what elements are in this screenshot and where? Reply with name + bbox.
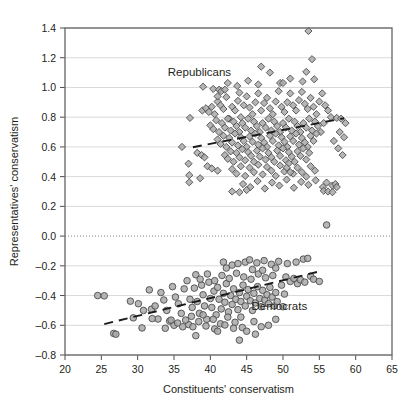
data-point <box>304 255 311 262</box>
data-point <box>211 277 218 284</box>
x-tick-label: 65 <box>386 363 398 375</box>
x-tick-label: 25 <box>95 363 107 375</box>
x-tick-label: 20 <box>59 363 71 375</box>
data-point <box>162 325 169 332</box>
data-point <box>204 271 211 278</box>
y-tick-label: –0.8 <box>36 349 57 361</box>
data-point <box>258 323 265 330</box>
y-tick-label: 0.2 <box>41 200 56 212</box>
data-point <box>139 325 146 332</box>
data-point <box>281 291 288 298</box>
data-point <box>182 317 189 324</box>
data-point <box>316 278 323 285</box>
x-tick-label: 50 <box>277 363 289 375</box>
data-point <box>272 289 279 296</box>
y-axis-title: Representatives' conservatism <box>8 117 20 266</box>
data-point <box>158 289 165 296</box>
data-point <box>203 323 210 330</box>
y-tick-label: 1.0 <box>41 81 56 93</box>
data-point <box>214 328 221 335</box>
data-point <box>252 331 259 338</box>
data-point <box>224 314 231 321</box>
data-point <box>210 316 217 323</box>
data-point <box>262 274 269 281</box>
data-point <box>259 267 266 274</box>
y-tick-label: 0.4 <box>41 171 56 183</box>
y-tick-label: –0.4 <box>36 290 57 302</box>
data-point <box>293 259 300 266</box>
data-point <box>243 328 250 335</box>
data-point <box>235 260 242 267</box>
data-point <box>193 332 200 339</box>
data-point <box>270 272 277 279</box>
scatter-plot-figure: 20253035404550556065 –0.8–0.6–0.4–0.20.0… <box>0 0 420 415</box>
chart-canvas: 20253035404550556065 –0.8–0.6–0.4–0.20.0… <box>0 0 420 415</box>
data-point <box>238 314 245 321</box>
data-point <box>261 257 268 264</box>
data-point <box>184 277 191 284</box>
data-point <box>214 284 221 291</box>
data-point <box>161 297 168 304</box>
data-point <box>233 270 240 277</box>
chart-background <box>0 0 420 415</box>
data-point <box>101 293 108 300</box>
annotation-democrats: Democrats <box>252 300 308 312</box>
y-tick-label: 1.4 <box>41 22 56 34</box>
data-point <box>267 284 274 291</box>
annotation-republicans: Republicans <box>168 66 232 78</box>
x-tick-label: 35 <box>168 363 180 375</box>
data-point <box>230 325 237 332</box>
data-point <box>189 304 196 311</box>
data-point <box>140 307 147 314</box>
data-point <box>251 318 258 325</box>
data-point <box>222 322 229 329</box>
y-tick-label: –0.2 <box>36 260 57 272</box>
data-point <box>249 266 256 273</box>
data-point <box>275 258 282 265</box>
data-point <box>168 317 175 324</box>
data-point <box>146 287 153 294</box>
x-tick-label: 55 <box>313 363 325 375</box>
data-point <box>223 265 230 272</box>
data-point <box>235 306 242 313</box>
x-tick-label: 60 <box>350 363 362 375</box>
data-point <box>135 300 142 307</box>
data-point <box>190 323 197 330</box>
data-point <box>323 222 330 229</box>
data-point <box>254 260 261 267</box>
data-point <box>181 286 188 293</box>
y-tick-label: 0.8 <box>41 111 56 123</box>
y-tick-label: 0.0 <box>41 230 56 242</box>
y-tick-label: 0.6 <box>41 141 56 153</box>
data-point <box>152 303 159 310</box>
data-point <box>178 310 185 317</box>
data-point <box>191 285 198 292</box>
data-point <box>195 318 202 325</box>
data-point <box>251 290 258 297</box>
data-point <box>219 272 226 279</box>
x-tick-label: 45 <box>241 363 253 375</box>
x-axis-title: Constituents' conservatism <box>163 383 294 395</box>
data-point <box>242 303 249 310</box>
data-point <box>149 315 156 322</box>
data-point <box>200 312 207 319</box>
data-point <box>265 322 272 329</box>
data-point <box>113 331 120 338</box>
data-point <box>218 306 225 313</box>
x-tick-label: 30 <box>132 363 144 375</box>
data-point <box>179 323 186 330</box>
data-point <box>200 292 207 299</box>
data-point <box>208 304 215 311</box>
data-point <box>302 279 309 286</box>
data-point <box>127 298 134 305</box>
data-point <box>94 292 101 299</box>
data-point <box>188 313 195 320</box>
data-point <box>245 286 252 293</box>
data-point <box>272 316 279 323</box>
data-point <box>278 282 285 289</box>
y-tick-label: –0.6 <box>36 319 57 331</box>
data-point <box>201 303 208 310</box>
data-point <box>169 283 176 290</box>
data-point <box>236 337 243 344</box>
data-point <box>248 276 255 283</box>
